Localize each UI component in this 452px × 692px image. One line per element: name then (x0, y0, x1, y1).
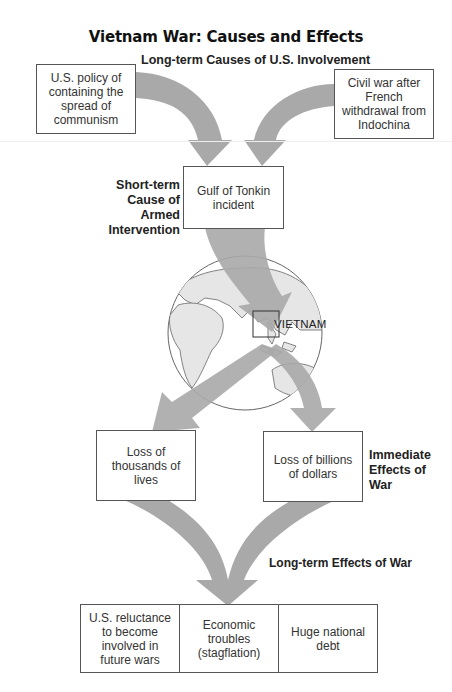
cause-box-containment: U.S. policy of containing the spread of … (36, 64, 136, 134)
effect-box-dollars: Loss of billions of dollars (263, 431, 363, 502)
scan-line (0, 141, 452, 142)
long-term-effects-label: Long-term Effects of War (269, 556, 412, 570)
diagram-title: Vietnam War: Causes and Effects (0, 28, 452, 46)
effect-cell-reluctance: U.S. reluctance to become involved in fu… (81, 605, 180, 672)
effect-cell-debt: Huge national debt (279, 605, 377, 672)
immediate-effects-label: Immediate Effects of War (369, 448, 439, 493)
arrow-immediate-to-long-term (124, 500, 336, 606)
running-head (160, 0, 290, 2)
vietnam-label: VIETNAM (274, 318, 327, 330)
long-term-causes-heading: Long-term Causes of U.S. Involvement (141, 53, 370, 67)
cause-box-civil-war: Civil war after French withdrawal from I… (334, 69, 434, 139)
short-term-cause-label: Short-term Cause of Armed Intervention (92, 178, 180, 238)
arrow-right-cause-to-gulf (244, 84, 334, 166)
long-term-effects-table: U.S. reluctance to become involved in fu… (80, 604, 378, 673)
arrow-left-cause-to-gulf (136, 72, 232, 166)
gulf-of-tonkin-box: Gulf of Tonkin incident (183, 166, 284, 229)
effect-box-lives: Loss of thousands of lives (96, 430, 196, 501)
effect-cell-stagflation: Economic troubles (stagflation) (180, 605, 279, 672)
